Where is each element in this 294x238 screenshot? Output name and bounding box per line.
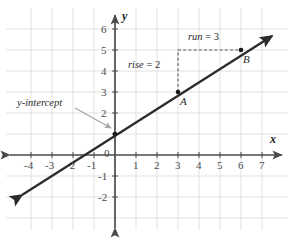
- point-a-label: A: [180, 96, 187, 107]
- x-tick-7: 7: [259, 160, 265, 171]
- run-label-italic: run: [188, 31, 203, 42]
- y-intercept-label: y-intercept: [17, 98, 62, 109]
- y-tick-3: 3: [101, 87, 107, 98]
- y-tick-4: 4: [101, 66, 107, 77]
- x-tick--3: -3: [45, 160, 54, 171]
- grid-lines: [6, 8, 288, 230]
- graph-figure: y x 0 -4 -3 -2 -1 1 2 3 4 5 6 7 6 5 4 3 …: [0, 0, 294, 238]
- x-tick-2: 2: [154, 160, 160, 171]
- coordinate-plane-svg: [0, 0, 294, 238]
- rise-label: rise = 2: [128, 60, 160, 71]
- x-axis-label: x: [270, 133, 276, 145]
- y-tick-6: 6: [101, 24, 107, 35]
- point-a-marker: [176, 90, 181, 95]
- point-b-marker: [239, 48, 244, 53]
- point-b-label: B: [243, 54, 250, 65]
- tick-origin: 0: [104, 148, 110, 159]
- y-intercept-marker: [113, 132, 118, 137]
- x-tick--1: -1: [87, 160, 96, 171]
- y-tick--1: -1: [98, 171, 107, 182]
- x-tick--2: -2: [66, 160, 75, 171]
- y-tick--2: -2: [98, 192, 107, 203]
- y-axis-label: y: [122, 10, 127, 22]
- x-tick-5: 5: [217, 160, 223, 171]
- x-tick-3: 3: [175, 160, 181, 171]
- x-tick--4: -4: [24, 160, 33, 171]
- y-tick-5: 5: [101, 45, 107, 56]
- run-label-value: = 3: [203, 31, 219, 42]
- rise-label-value: = 2: [144, 59, 160, 70]
- x-tick-6: 6: [238, 160, 244, 171]
- x-tick-1: 1: [133, 160, 139, 171]
- x-tick-4: 4: [196, 160, 202, 171]
- y-tick-2: 2: [101, 108, 107, 119]
- run-label: run = 3: [188, 32, 219, 43]
- rise-label-italic: rise: [128, 59, 144, 70]
